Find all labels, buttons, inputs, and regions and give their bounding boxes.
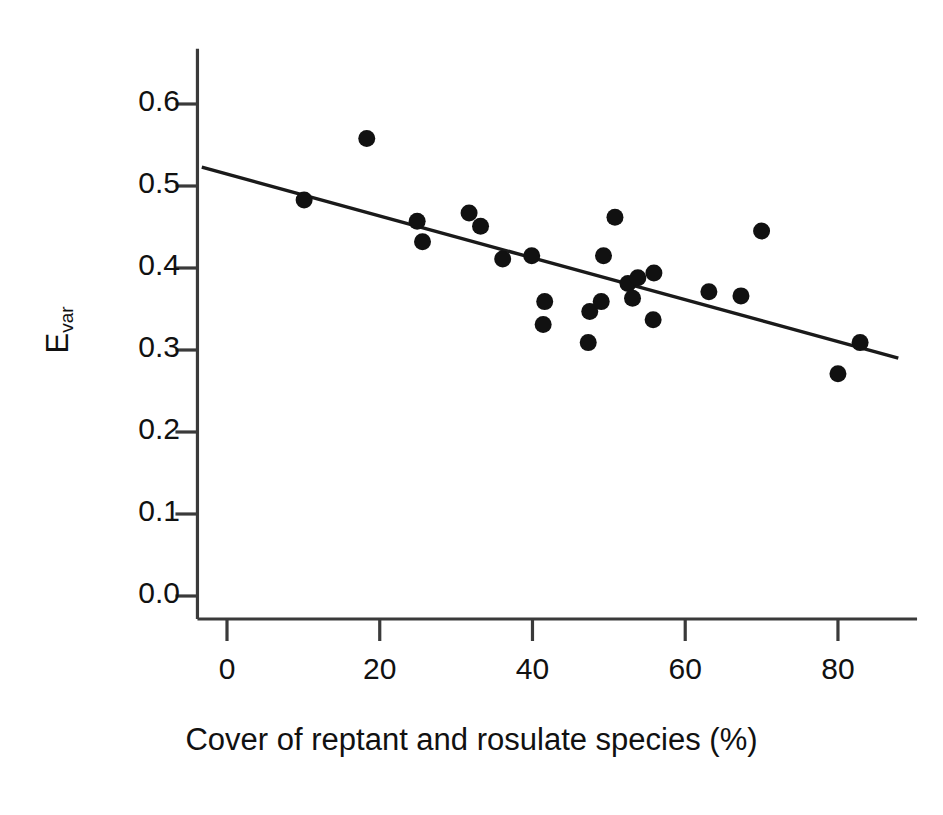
y-axis-title: Evar [13, 290, 103, 370]
data-point [606, 209, 623, 226]
y-axis-title-subscript: var [56, 306, 77, 332]
y-axis-title-base: E [40, 333, 75, 354]
data-point [494, 250, 511, 267]
x-tick-label-0: 0 [167, 652, 287, 686]
data-point [624, 290, 641, 307]
data-point [593, 293, 610, 310]
data-point [645, 311, 662, 328]
data-point [472, 218, 489, 235]
data-point [852, 334, 869, 351]
data-point [409, 213, 426, 230]
y-tick-label-2: 0.2 [60, 412, 180, 446]
data-point [414, 233, 431, 250]
data-points-group [296, 130, 869, 382]
x-tick-label-1: 20 [320, 652, 440, 686]
data-point [358, 130, 375, 147]
data-point [536, 293, 553, 310]
y-tick-label-4: 0.4 [60, 248, 180, 282]
scatter-plot-figure: 0.00.10.20.30.40.50.6 020406080 Evar Cov… [0, 0, 943, 815]
data-point [645, 264, 662, 281]
data-point [523, 247, 540, 264]
data-point [753, 223, 770, 240]
x-tick-label-3: 60 [625, 652, 745, 686]
x-tick-label-4: 80 [778, 652, 898, 686]
data-point [829, 365, 846, 382]
data-point [461, 205, 478, 222]
x-tick-label-2: 40 [472, 652, 592, 686]
y-tick-label-0: 0.0 [60, 576, 180, 610]
y-tick-label-1: 0.1 [60, 494, 180, 528]
data-point [629, 269, 646, 286]
x-axis-title: Cover of reptant and rosulate species (%… [0, 722, 943, 758]
plot-canvas [0, 0, 943, 815]
data-point [296, 191, 313, 208]
tick-marks-group [175, 104, 838, 641]
data-point [700, 283, 717, 300]
data-point [535, 316, 552, 333]
data-point [732, 287, 749, 304]
data-point [595, 247, 612, 264]
y-tick-label-6: 0.6 [60, 84, 180, 118]
data-point [580, 334, 597, 351]
y-tick-label-5: 0.5 [60, 166, 180, 200]
